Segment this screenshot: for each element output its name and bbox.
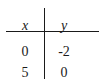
- table-cell-x: 5: [15, 66, 35, 80]
- header-y: y: [54, 19, 74, 33]
- table-cell-y: 0: [54, 66, 74, 80]
- header-x: x: [15, 19, 35, 33]
- column-divider: [44, 8, 45, 79]
- table-cell-x: 0: [15, 45, 35, 59]
- table-cell-y: -2: [54, 45, 74, 59]
